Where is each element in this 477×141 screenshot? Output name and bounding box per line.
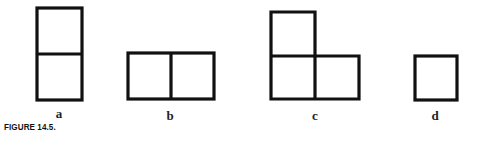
shape-b-horizontal-domino xyxy=(128,53,214,99)
label-c: c xyxy=(312,108,318,124)
figure-caption: FIGURE 14.5. xyxy=(4,121,56,132)
shape-d-monomino xyxy=(415,56,457,100)
label-a: a xyxy=(56,106,63,122)
figure-canvas xyxy=(0,0,477,141)
shape-a-vertical-domino xyxy=(37,8,82,100)
label-d: d xyxy=(431,108,438,124)
shape-c-l-tromino xyxy=(271,12,359,99)
label-b: b xyxy=(166,108,173,124)
